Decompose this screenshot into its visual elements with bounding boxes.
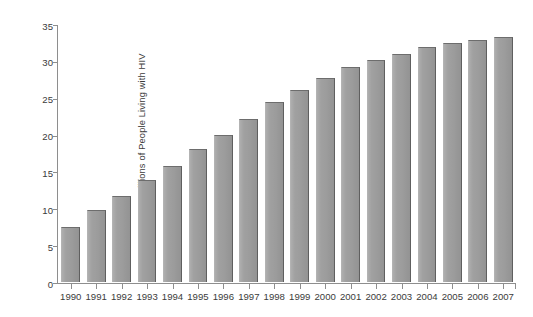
x-tick-mark (427, 284, 428, 289)
x-tick-mark (223, 284, 224, 289)
bar (214, 135, 233, 282)
x-tick-label: 2002 (365, 291, 386, 302)
y-tick-mark (53, 62, 57, 63)
y-tick-mark (53, 246, 57, 247)
bar (468, 40, 487, 282)
x-tick-label: 2004 (416, 291, 437, 302)
x-axis-end-tick (515, 284, 516, 289)
y-tick: 30 (57, 62, 61, 63)
bar (367, 60, 386, 282)
bar (341, 67, 360, 282)
x-tick-label: 2001 (340, 291, 361, 302)
y-tick-label: 20 (42, 131, 53, 142)
x-tick-mark (71, 284, 72, 289)
y-tick-mark (53, 136, 57, 137)
y-tick: 10 (57, 209, 61, 210)
bar (290, 90, 309, 282)
x-tick-label: 1997 (238, 291, 259, 302)
y-tick-label: 35 (42, 20, 53, 31)
bar (112, 196, 131, 282)
x-tick-mark (96, 284, 97, 289)
y-tick-label: 30 (42, 57, 53, 68)
bar (87, 210, 106, 282)
x-tick-label: 1995 (187, 291, 208, 302)
x-tick-label: 2003 (391, 291, 412, 302)
x-tick-label: 2006 (467, 291, 488, 302)
bar (163, 166, 182, 282)
x-tick-mark (402, 284, 403, 289)
y-tick-label: 10 (42, 204, 53, 215)
bar-chart: Millions of People Living with HIV 05101… (0, 0, 533, 317)
x-axis-line (57, 283, 516, 284)
bar (392, 54, 411, 283)
plot-area: 05101520253035 1990199119921993199419951… (57, 25, 515, 283)
bar (494, 37, 513, 282)
y-tick: 15 (57, 172, 61, 173)
x-tick-mark (249, 284, 250, 289)
x-tick-label: 2007 (493, 291, 514, 302)
x-tick-mark (376, 284, 377, 289)
x-tick-label: 1998 (264, 291, 285, 302)
x-tick-mark (351, 284, 352, 289)
x-tick-mark (503, 284, 504, 289)
y-axis-line (57, 25, 58, 284)
y-tick-label: 5 (48, 241, 53, 252)
y-tick-mark (53, 172, 57, 173)
bar (138, 180, 157, 282)
y-tick-mark (53, 283, 57, 284)
y-tick: 0 (57, 283, 61, 284)
x-tick-label: 1990 (60, 291, 81, 302)
bar (418, 47, 437, 282)
x-tick-mark (198, 284, 199, 289)
y-tick: 35 (57, 25, 61, 26)
y-tick-label: 0 (48, 278, 53, 289)
bar (443, 43, 462, 282)
x-tick-mark (452, 284, 453, 289)
y-tick-mark (53, 25, 57, 26)
x-tick-label: 1994 (162, 291, 183, 302)
y-tick: 25 (57, 99, 61, 100)
bar (265, 102, 284, 282)
y-tick-mark (53, 209, 57, 210)
bar (239, 119, 258, 282)
x-tick-mark (173, 284, 174, 289)
x-tick-mark (478, 284, 479, 289)
x-tick-label: 1999 (289, 291, 310, 302)
x-tick-label: 1996 (213, 291, 234, 302)
y-tick-mark (53, 99, 57, 100)
x-tick-mark (300, 284, 301, 289)
bar (189, 149, 208, 282)
y-tick-label: 15 (42, 167, 53, 178)
y-tick: 20 (57, 136, 61, 137)
x-tick-mark (122, 284, 123, 289)
x-tick-label: 1993 (136, 291, 157, 302)
x-tick-label: 1992 (111, 291, 132, 302)
bar (61, 227, 80, 282)
x-tick-label: 2005 (442, 291, 463, 302)
x-tick-mark (325, 284, 326, 289)
bar (316, 78, 335, 282)
x-tick-label: 2000 (314, 291, 335, 302)
x-tick-mark (274, 284, 275, 289)
x-tick-mark (147, 284, 148, 289)
x-tick-label: 1991 (85, 291, 106, 302)
y-tick-label: 25 (42, 94, 53, 105)
